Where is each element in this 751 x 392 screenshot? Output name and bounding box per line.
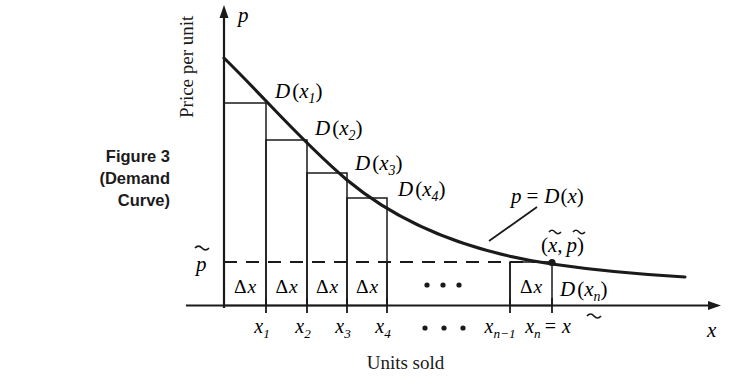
x-ticks-ellipsis (422, 325, 465, 330)
x-tick-label-4: x4 (374, 315, 391, 341)
delta-x-label-2: Δx (275, 276, 298, 297)
curve-label-leader-line (489, 207, 537, 241)
x-tick-label-3: x3 (334, 315, 351, 341)
x-axis-title: Units sold (307, 352, 445, 373)
delta-x-labels: Δx Δx Δx Δx Δx (234, 276, 543, 297)
x-tick-label-n-minus-1: xn−1 (484, 315, 516, 341)
p-axis-label: p (236, 3, 249, 27)
delta-x-label-4: Δx (356, 276, 379, 297)
bar-label-3: D(x3) (354, 151, 402, 178)
tilde-p-axis (195, 246, 209, 250)
equilibrium-point-dot (548, 259, 555, 266)
demand-curve-diagram: p x D(x1) D(x2) (0, 0, 751, 392)
bar-gap-edges (387, 262, 510, 306)
x-tick-label-2: x2 (294, 315, 311, 341)
tilde-x-tick (587, 314, 601, 318)
bar-label-n: D(xn) (559, 277, 607, 304)
bars-ellipsis (424, 282, 461, 287)
x-axis-title-wrapper: Units sold (0, 352, 751, 374)
figure-container: Figure 3 (Demand Curve) Price per unit p… (0, 0, 751, 392)
equilibrium-price-label: p (194, 246, 209, 276)
x-axis-label: x (706, 318, 717, 342)
bar-label-1: D(x1) (274, 79, 322, 106)
curve-equation-label: p=D(x) (509, 184, 584, 208)
svg-text:p: p (194, 252, 207, 276)
bar-label-4: D(x4) (397, 177, 445, 204)
bar-label-2: D(x2) (314, 116, 362, 143)
svg-text:(x,p): (x,p) (541, 233, 584, 257)
delta-x-label-3: Δx (316, 276, 339, 297)
riemann-bars (224, 103, 552, 306)
delta-x-label-1: Δx (234, 276, 257, 297)
x-tick-label-1: x1 (253, 315, 269, 341)
equilibrium-point-label: (x,p) (541, 230, 585, 257)
delta-x-label-n: Δx (520, 276, 543, 297)
x-tick-label-n: xn=x (524, 315, 571, 341)
